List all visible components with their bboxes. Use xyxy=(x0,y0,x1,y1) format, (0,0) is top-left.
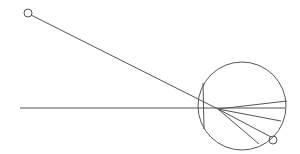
diagram-canvas xyxy=(0,0,300,154)
fan-ray xyxy=(218,109,271,137)
incident-ray xyxy=(31,15,218,109)
chord-line xyxy=(203,83,204,129)
fan-ray xyxy=(218,109,259,144)
start-marker-circle xyxy=(24,9,32,17)
fan-ray xyxy=(218,109,281,121)
